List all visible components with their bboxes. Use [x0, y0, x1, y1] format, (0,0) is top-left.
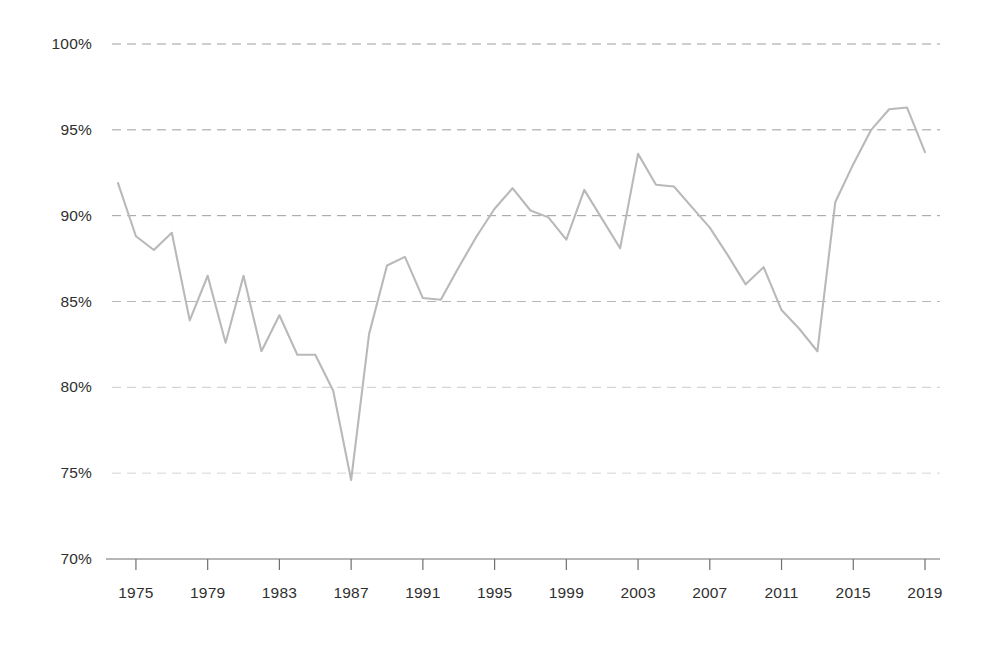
x-tick-label: 2019: [907, 584, 942, 602]
x-axis-ticks: [136, 559, 925, 570]
y-tick-label: 90%: [10, 207, 92, 225]
x-tick-label: 1987: [333, 584, 368, 602]
x-tick-label: 1983: [262, 584, 297, 602]
y-tick-label: 95%: [10, 121, 92, 139]
line-chart: 100%95%90%85%80%75%70% 19751979198319871…: [0, 0, 988, 650]
y-tick-label: 75%: [10, 464, 92, 482]
x-tick-label: 1991: [405, 584, 440, 602]
x-tick-label: 1975: [118, 584, 153, 602]
x-tick-label: 1995: [477, 584, 512, 602]
x-tick-label: 1999: [549, 584, 584, 602]
gridlines: [112, 44, 940, 473]
y-tick-label: 100%: [10, 35, 92, 53]
y-tick-label: 85%: [10, 293, 92, 311]
x-tick-label: 2011: [764, 584, 798, 602]
y-tick-label: 70%: [10, 550, 92, 568]
y-tick-label: 80%: [10, 378, 92, 396]
x-tick-label: 2003: [620, 584, 655, 602]
x-tick-label: 2007: [692, 584, 727, 602]
x-tick-label: 1979: [190, 584, 225, 602]
plot-area: [0, 0, 988, 650]
x-tick-label: 2015: [836, 584, 871, 602]
data-line: [118, 108, 925, 481]
data-line-series: [118, 108, 925, 481]
